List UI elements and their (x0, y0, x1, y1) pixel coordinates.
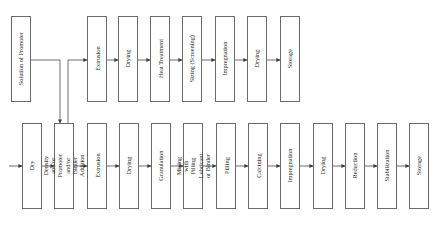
node-bottom-impregnation: Impregnation (280, 123, 300, 209)
node-label: Drying (319, 157, 326, 175)
node-top-drying-1: Drying (118, 16, 138, 102)
node-top-extrusion: Extrusion (87, 16, 107, 102)
node-label: Impregnation (286, 149, 293, 183)
node-heat-treatment: Heat Treatment (150, 16, 170, 102)
node-label: Calcining (254, 154, 261, 178)
node-label: Reduction (351, 153, 358, 179)
node-label: Density and/or Promoter and/or Binder Ad… (42, 154, 85, 177)
node-label: Granulation (157, 151, 164, 181)
node-bottom-drying-1: Drying (119, 123, 139, 209)
node-top-storage: Storage (280, 16, 300, 102)
node-stabilization: Stabilization (377, 123, 397, 209)
node-pilling: Pilling (216, 123, 236, 209)
node-label: Drying (124, 50, 131, 68)
node-label: Sizing (Screening) (188, 35, 195, 82)
node-label: Drying (125, 157, 132, 175)
node-label: Extrusion (93, 154, 100, 179)
node-label: Stabilization (383, 150, 390, 182)
node-density-promoter-binder-addition: Density and/or Promoter and/or Binder Ad… (54, 123, 74, 209)
node-top-drying-2: Drying (247, 16, 267, 102)
node-label: Impregnation (221, 42, 228, 76)
flowchart-canvas: Solution of Promoter Extrusion Drying He… (0, 0, 439, 234)
node-solution-of-promoter: Solution of Promoter (11, 16, 31, 102)
node-bottom-extrusion: Extrusion (87, 123, 107, 209)
node-label: Storage (286, 49, 293, 68)
node-mixing-pilling-lubricant: Mixing with Pilling Lubricant or Binder (183, 123, 203, 209)
node-dry: Dry (22, 123, 42, 209)
node-label: Drying (253, 50, 260, 68)
node-label: Heat Treatment (156, 39, 163, 78)
node-granulation: Granulation (151, 123, 171, 209)
node-label: Dry (28, 161, 35, 171)
node-bottom-storage: Storage (409, 123, 429, 209)
node-label: Storage (415, 156, 422, 175)
node-label: Solution of Promoter (17, 32, 24, 85)
node-label: Mixing with Pilling Lubricant or Binder (175, 154, 211, 178)
node-label: Extrusion (93, 47, 100, 72)
node-top-impregnation: Impregnation (215, 16, 235, 102)
node-label: Pilling (222, 158, 229, 175)
node-bottom-drying-2: Drying (313, 123, 333, 209)
node-sizing-screening: Sizing (Screening) (182, 16, 202, 102)
node-reduction: Reduction (345, 123, 365, 209)
node-calcining: Calcining (248, 123, 268, 209)
